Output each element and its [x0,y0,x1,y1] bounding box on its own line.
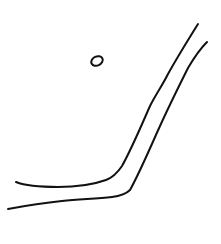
small-oval [90,54,105,67]
sketch-canvas: Hand-drawn line sketch: two roughly para… [0,0,221,244]
outer-curve-stroke [8,42,207,209]
sketch-drawing [0,0,221,244]
